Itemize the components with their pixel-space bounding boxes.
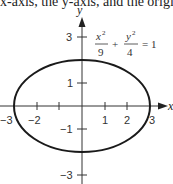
y-tick-label: −1 — [60, 123, 73, 135]
y-axis-arrow-icon — [79, 17, 86, 27]
equation-equals: = 1 — [142, 38, 156, 50]
x-tick-label: 3 — [149, 114, 155, 126]
equation-x-exponent: 2 — [102, 29, 106, 37]
x-tick-label: −3 — [0, 114, 13, 126]
x-tick-label: 1 — [102, 114, 108, 126]
y-axis-label: y — [76, 3, 83, 17]
y-tick-label: 3 — [66, 31, 72, 43]
equation-y-denominator: 4 — [127, 46, 133, 58]
equation-x-denominator: 9 — [98, 46, 104, 58]
ellipse-equation: x 2 9 + y 2 4 = 1 — [95, 29, 156, 58]
equation-x-numerator: x — [95, 30, 101, 42]
equation-y-exponent: 2 — [132, 29, 136, 37]
x-axis-arrow-icon — [158, 103, 168, 110]
x-axis-label: x — [167, 99, 173, 113]
x-tick-label: −2 — [28, 114, 41, 126]
y-tick-label: 1 — [67, 77, 73, 89]
y-tick-label: −3 — [60, 169, 73, 181]
equation-y-numerator: y — [125, 30, 131, 42]
ellipse-diagram: y x −3 −2 1 2 3 3 1 −1 −3 x 2 9 + y 2 4 … — [0, 0, 173, 184]
x-tick-label: 2 — [124, 114, 130, 126]
equation-plus: + — [112, 38, 118, 50]
